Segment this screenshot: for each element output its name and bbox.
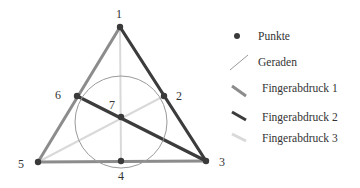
- legend: Punkte Geraden Fingerabdruck 1 Fingerabd…: [228, 27, 360, 158]
- line-1-4: [120, 27, 121, 161]
- point-label-3: 3: [219, 155, 225, 169]
- point-2: [161, 93, 167, 99]
- point-5: [35, 159, 41, 165]
- point-3: [203, 158, 209, 164]
- legend-label: Punkte: [258, 30, 290, 42]
- point-label-6: 6: [55, 88, 61, 102]
- point-1: [117, 24, 123, 30]
- point-label-7: 7: [109, 98, 115, 112]
- legend-item-fingerabdruck-2: Fingerabdruck 2: [228, 107, 360, 132]
- point-4: [118, 158, 124, 164]
- legend-item-geraden: Geraden: [228, 53, 360, 80]
- legend-label: Fingerabdruck 3: [262, 132, 338, 144]
- point-label-4: 4: [118, 169, 124, 183]
- legend-label: Fingerabdruck 1: [262, 82, 338, 94]
- legend-item-punkte: Punkte: [228, 27, 360, 53]
- point-label-1: 1: [116, 7, 122, 21]
- legend-label: Geraden: [258, 56, 297, 68]
- legend-item-fingerabdruck-1: Fingerabdruck 1: [228, 80, 360, 107]
- legend-label: Fingerabdruck 2: [262, 111, 338, 123]
- point-label-2: 2: [176, 89, 182, 103]
- point-6: [74, 93, 80, 99]
- point-7: [118, 114, 124, 120]
- point-label-5: 5: [18, 157, 24, 171]
- legend-item-fingerabdruck-3: Fingerabdruck 3: [228, 132, 360, 158]
